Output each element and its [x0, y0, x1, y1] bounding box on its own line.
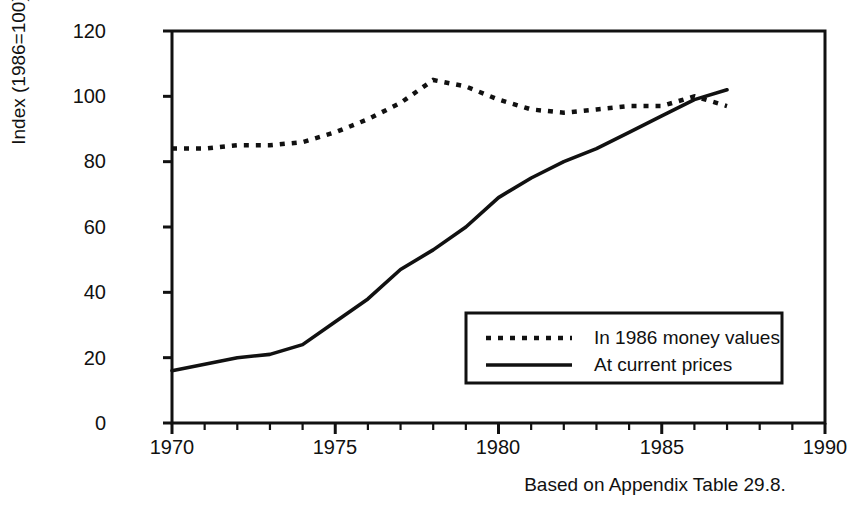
- chart-figure: Index (1986=100) 120 100 80 60 40 20 0 1…: [0, 0, 851, 512]
- x-tick-marks: [172, 423, 825, 434]
- legend-label-dotted: In 1986 money values: [594, 327, 780, 349]
- figure-caption: Based on Appendix Table 29.8.: [470, 474, 840, 496]
- legend-label-solid: At current prices: [594, 354, 732, 376]
- series-line-in-1986-money-values: [172, 80, 727, 149]
- plot-area: [0, 0, 851, 512]
